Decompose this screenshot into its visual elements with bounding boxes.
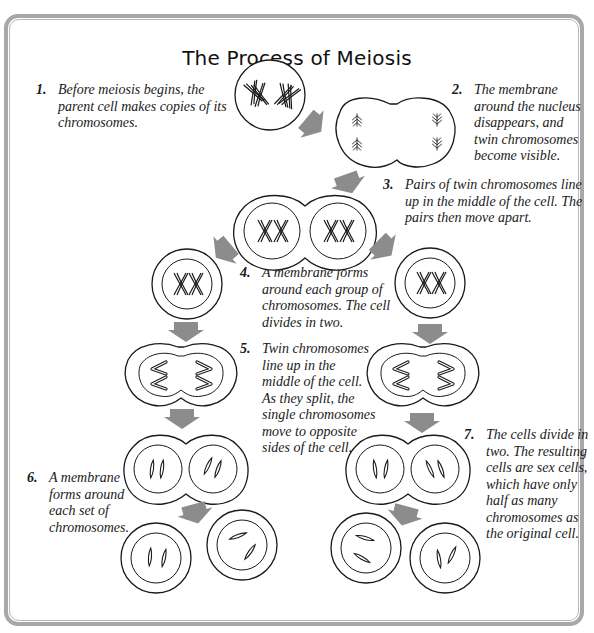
parent-cell bbox=[235, 60, 305, 130]
cell-step-3 bbox=[234, 196, 377, 271]
cell-step-5-left bbox=[125, 344, 236, 406]
sex-cell-1 bbox=[121, 523, 191, 593]
arrow-icon bbox=[164, 409, 200, 429]
sex-cell-3 bbox=[331, 513, 401, 583]
meiosis-illustration bbox=[0, 0, 594, 633]
sex-cell-2 bbox=[207, 510, 277, 580]
sex-cell-4 bbox=[410, 523, 480, 593]
cell-step-5-right bbox=[367, 344, 478, 406]
arrow-icon bbox=[412, 324, 448, 344]
arrow-icon bbox=[328, 168, 369, 199]
arrow-icon bbox=[404, 413, 440, 433]
daughter-cell-left bbox=[152, 249, 222, 319]
cell-step-6-left bbox=[124, 435, 248, 504]
arrow-icon bbox=[168, 322, 204, 342]
cell-step-6-right bbox=[346, 435, 470, 504]
cell-step-2 bbox=[336, 98, 455, 167]
daughter-cell-right bbox=[395, 248, 465, 318]
